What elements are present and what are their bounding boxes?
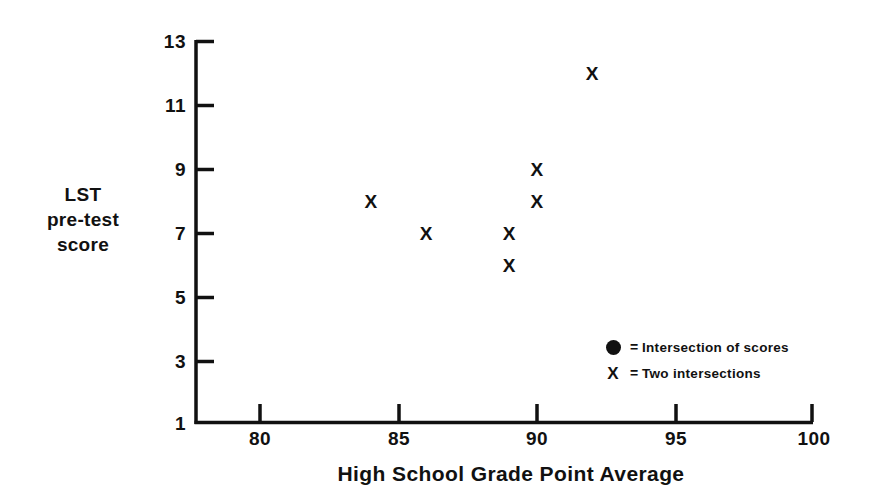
xtick-label-100: 100: [797, 428, 830, 450]
legend: = Intersection of scores X = Two interse…: [600, 334, 789, 386]
ytick-label-13: 13: [164, 31, 186, 53]
data-point-x-marker: X: [530, 160, 543, 180]
legend-equals-sign-1: =: [626, 339, 642, 355]
ytick-label-5: 5: [175, 287, 186, 309]
xtick-label-80: 80: [249, 428, 271, 450]
y-axis-title: LST pre-test score: [18, 182, 148, 257]
legend-row-intersection: = Intersection of scores: [600, 334, 789, 360]
legend-row-two-intersections: X = Two intersections: [600, 360, 789, 386]
ytick-label-9: 9: [175, 159, 186, 181]
ytick-label-7: 7: [175, 223, 186, 245]
data-point-x-marker: X: [530, 192, 543, 212]
xtick-label-90: 90: [526, 428, 548, 450]
legend-key-filled-circle-icon: [600, 340, 626, 355]
legend-label-intersection: Intersection of scores: [642, 340, 789, 355]
data-point-x-marker: X: [503, 256, 516, 276]
xtick-label-85: 85: [388, 428, 410, 450]
legend-key-x-icon: X: [600, 365, 626, 382]
y-axis-title-line-1: LST: [18, 182, 148, 207]
x-axis-title: High School Grade Point Average: [196, 462, 826, 486]
ytick-label-1: 1: [175, 413, 186, 435]
data-point-x-marker: X: [586, 64, 599, 84]
y-axis-title-line-2: pre-test: [18, 207, 148, 232]
data-point-x-marker: X: [364, 192, 377, 212]
legend-label-two-intersections: Two intersections: [642, 366, 761, 381]
legend-equals-sign-2: =: [626, 365, 642, 381]
scatter-plot-figure: 13 11 9 7 5 3 1 80 85 90 95 100 LST pre-…: [0, 0, 880, 501]
y-axis-title-line-3: score: [18, 232, 148, 257]
xtick-label-95: 95: [665, 428, 687, 450]
data-point-x-marker: X: [420, 224, 433, 244]
ytick-label-3: 3: [175, 351, 186, 373]
ytick-label-11: 11: [165, 95, 186, 117]
data-point-x-marker: X: [503, 224, 516, 244]
